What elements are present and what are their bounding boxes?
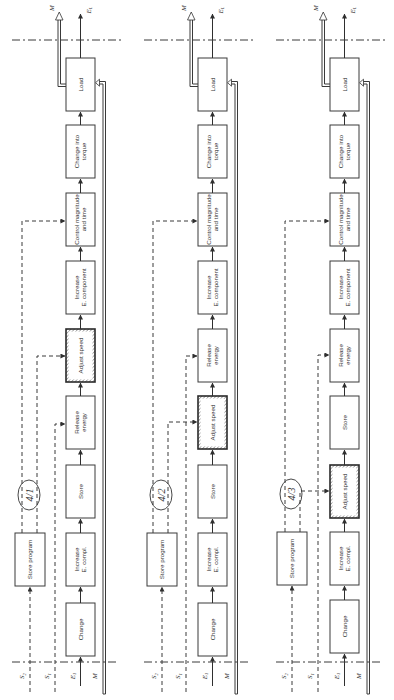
block-load-label: Load (341, 77, 348, 91)
block-increase-e-component-label: Increase (73, 275, 80, 299)
output-label-el: EL (349, 6, 358, 14)
block-load-label-group: Load (209, 77, 216, 91)
block-adjust-speed-label: Adjust speed (341, 473, 348, 509)
block-adjust-speed-label-group: Adjust speed (209, 404, 216, 440)
block-release-energy-label: Release (73, 411, 80, 434)
input-label-m: M (355, 672, 363, 680)
panel-id: 4/3 (286, 488, 297, 501)
block-increase-e-compl-label: E. compl. (212, 546, 219, 572)
panel-4-1: ChangeIncreaseE. compl.StoreReleaseenerg… (12, 4, 123, 694)
m-line-outer (98, 84, 103, 694)
block-change-into-torque-label: Change into (205, 134, 212, 168)
input-label-e1: E1 (69, 673, 78, 681)
block-control-magnitude-and-time-label: and time (212, 207, 219, 231)
block-change-into-torque-label: Change into (73, 134, 80, 168)
store-program-label: Store program (288, 539, 295, 579)
block-change-into-torque-label: torque (80, 142, 87, 160)
block-change-into-torque-label: Change into (337, 134, 344, 168)
store-program-label-group: Store program (158, 540, 165, 580)
panel-id: 4/2 (156, 489, 167, 502)
input-label-e1: E1 (333, 673, 342, 681)
store-program-control-line (37, 356, 65, 533)
s1-control-line (186, 356, 197, 692)
output-label-el: EL (217, 6, 226, 14)
store-program-label-group: Store program (26, 540, 33, 580)
block-control-magnitude-and-time-label: and time (344, 207, 351, 231)
block-increase-e-compl-label: Increase (205, 547, 212, 571)
block-increase-e-compl-label-group: IncreaseE. compl. (337, 545, 351, 571)
block-increase-e-compl-label: E. compl. (344, 545, 351, 571)
output-label-el-text: EL (217, 6, 226, 14)
panel-4-2: ChangeIncreaseE. compl.StoreAdjust speed… (144, 4, 255, 694)
m-line-outer (362, 84, 367, 694)
input-label-m-text: M (91, 672, 99, 680)
block-increase-e-component-label: E. component (80, 268, 87, 306)
block-change-label: Change (341, 615, 348, 637)
panels-group: ChangeIncreaseE. compl.StoreReleaseenerg… (12, 4, 387, 694)
input-label-m: M (223, 672, 231, 680)
block-increase-e-component-label: Increase (205, 275, 212, 299)
block-change-into-torque-label: torque (212, 142, 219, 160)
block-adjust-speed-label: Adjust speed (77, 337, 84, 373)
panel-id-group: 4/2 (156, 489, 167, 502)
output-label-el-text: EL (349, 6, 358, 14)
m-line-inner (98, 82, 106, 695)
s2-control-line (285, 221, 329, 532)
input-label-s1-text: S1 (174, 673, 183, 679)
input-label-e1: E1 (201, 673, 210, 681)
input-label-s1-text: S1 (306, 673, 315, 679)
block-control-magnitude-and-time-label: and time (80, 207, 87, 231)
m-out-outer (58, 20, 66, 87)
s2-control-line (153, 221, 197, 533)
m-output-arrowhead (56, 12, 64, 20)
output-label-m-text: M (48, 4, 56, 12)
store-program-control-line (300, 491, 329, 532)
block-adjust-speed-label: Adjust speed (209, 404, 216, 440)
block-store-label: Store (341, 415, 348, 430)
input-label-e1-text: E1 (201, 673, 210, 681)
block-change-label: Change (209, 618, 216, 640)
block-control-magnitude-and-time-label: Control magnitude (73, 194, 80, 245)
block-adjust-speed-label-group: Adjust speed (341, 473, 348, 509)
block-store-label-group: Store (341, 415, 348, 430)
m-out-inner (61, 20, 67, 84)
block-change-label-group: Change (341, 615, 348, 637)
block-load-label-group: Load (341, 77, 348, 91)
block-increase-e-component-label: E. component (212, 268, 219, 306)
m-input-arrowhead (228, 79, 232, 86)
input-label-e1-text: E1 (69, 673, 78, 681)
panel-id-group: 4/3 (286, 488, 297, 501)
m-output-arrowhead (188, 12, 196, 20)
block-load-label-group: Load (77, 77, 84, 91)
input-label-s2-text: S2 (150, 672, 159, 679)
block-release-energy-label-group: Releaseenergy (73, 411, 87, 434)
store-program-label: Store program (158, 540, 165, 580)
block-change-label: Change (77, 618, 84, 640)
m-output-arrowhead (320, 12, 328, 20)
block-store-label: Store (209, 484, 216, 499)
block-change-into-torque-label: torque (344, 142, 351, 160)
panel-id-group: 4/1 (24, 489, 35, 502)
m-out-inner (325, 20, 331, 84)
block-release-energy-label-group: Releaseenergy (205, 344, 219, 367)
store-program-control-line (168, 422, 197, 533)
output-label-el: EL (85, 6, 94, 14)
block-increase-e-compl-label: E. compl. (80, 546, 87, 572)
m-line-outer (230, 84, 235, 694)
input-label-s2-text: S2 (280, 672, 289, 679)
input-label-s1: S1 (174, 673, 183, 679)
s2-control-line (22, 221, 65, 533)
block-control-magnitude-and-time-label: Control magnitude (337, 194, 344, 245)
output-label-m: M (180, 4, 188, 12)
input-label-s1: S1 (43, 673, 52, 679)
block-release-energy-label: energy (80, 412, 87, 432)
panel-id: 4/1 (24, 489, 35, 502)
block-store-label: Store (77, 484, 84, 499)
block-store-label-group: Store (209, 484, 216, 499)
input-label-m: M (91, 672, 99, 680)
block-diagram: ChangeIncreaseE. compl.StoreReleaseenerg… (0, 0, 394, 700)
block-release-energy-label: Release (337, 344, 344, 367)
input-label-m-text: M (223, 672, 231, 680)
block-control-magnitude-and-time-label: Control magnitude (205, 194, 212, 245)
block-increase-e-component-label: Increase (337, 275, 344, 299)
